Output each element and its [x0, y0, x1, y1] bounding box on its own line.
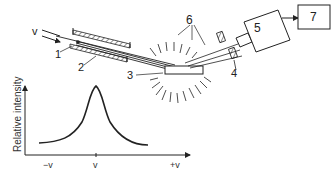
component-label-4: 4	[231, 68, 237, 79]
component-label-7: 7	[310, 11, 317, 23]
component-label-6: 6	[186, 14, 193, 26]
scatterer-plate	[165, 66, 203, 74]
resonance-curve	[39, 86, 148, 145]
detector-5	[236, 10, 290, 52]
diagram-canvas	[0, 0, 336, 175]
label-6-leaders	[178, 25, 205, 45]
y-axis-label: Relative intensity	[12, 76, 23, 152]
plot-axes	[25, 86, 190, 157]
velocity-label: v	[32, 26, 38, 37]
x-tick-minus-v: −v	[43, 161, 53, 170]
source-point	[76, 40, 80, 44]
holder-upper	[73, 28, 130, 48]
component-label-2: 2	[78, 62, 84, 73]
component-label-3: 3	[127, 70, 133, 81]
component-label-5: 5	[254, 22, 261, 34]
x-tick-plus-v: +v	[170, 161, 180, 170]
x-tick-v: v	[93, 161, 98, 170]
component-label-1: 1	[55, 49, 61, 60]
